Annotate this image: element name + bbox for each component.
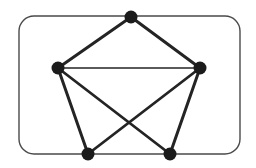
graph-vertex-bottom-left xyxy=(82,148,95,161)
graph-diagram xyxy=(0,0,256,168)
graph-vertex-right xyxy=(194,62,207,75)
graph-edge-left-bottom-right xyxy=(58,68,170,154)
rounded-frame xyxy=(19,16,240,154)
diagram-canvas xyxy=(0,0,256,168)
graph-vertex-bottom-right xyxy=(164,148,177,161)
graph-edge-top-left xyxy=(58,17,131,68)
graph-vertex-top xyxy=(125,11,138,24)
edge-layer xyxy=(58,17,200,154)
graph-vertex-left xyxy=(52,62,65,75)
frame-layer xyxy=(19,16,240,154)
graph-edge-right-bottom-left xyxy=(88,68,200,154)
node-layer xyxy=(52,11,207,161)
graph-edge-top-right xyxy=(131,17,200,68)
